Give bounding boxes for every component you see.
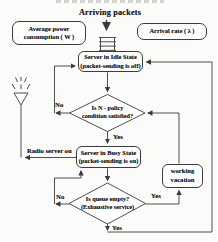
idle-state-box: Server in Idle State (packet-sending is … (78, 51, 143, 72)
working-vacation-box: working vacation (162, 164, 203, 188)
queue-empty-line2: (Exhaustive service) (67, 203, 148, 211)
queue-empty-line1: Is queue empty? (67, 195, 148, 203)
queue-empty-diamond-text: Is queue empty? (Exhaustive service) (67, 195, 148, 212)
queue-no-label: No (56, 193, 64, 200)
arrival-rate-label: Arrival rate ( λ ) (149, 27, 194, 35)
n-policy-line1: Is N - policy (67, 104, 148, 112)
arriving-packets-label: Arriving packets (70, 8, 150, 17)
busy-state-line1: Server in Busy State (81, 149, 136, 157)
working-vacation-line2: vacation (171, 176, 195, 185)
queue-yes-right-label: Yes (151, 192, 161, 199)
cropped-caption-remnant (56, 0, 164, 3)
average-power-line1: Average power (29, 25, 70, 33)
queue-yes-bottom-label: Yes (112, 224, 122, 231)
busy-state-line2: (packet-sending is on) (79, 157, 139, 165)
n-policy-line2: condition satisfied? (67, 112, 148, 120)
busy-state-box: Server in Busy State (packet-sending is … (76, 146, 141, 168)
arrival-rate-box: Arrival rate ( λ ) (137, 23, 207, 40)
queue-buffer-icon (99, 38, 116, 51)
idle-state-line2: (packet-sending is off) (80, 62, 140, 70)
antenna-icon (12, 77, 30, 158)
idle-state-line1: Server in Idle State (84, 53, 137, 61)
average-power-box: Average power consumption ( W ) (12, 21, 86, 45)
working-vacation-line1: working (171, 167, 194, 176)
radio-server-on-label: Radio server on (27, 147, 72, 154)
n-policy-yes-label: Yes (113, 133, 123, 140)
n-policy-no-label: No (55, 101, 63, 108)
flowchart-figure: Arriving packets Average power consumpti… (0, 0, 218, 242)
average-power-line2: consumption ( W ) (24, 33, 74, 41)
n-policy-diamond-text: Is N - policy condition satisfied? (67, 104, 148, 121)
